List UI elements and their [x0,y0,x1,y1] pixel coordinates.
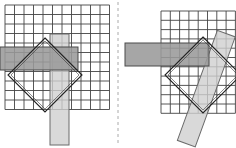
diagram-svg [0,0,236,148]
diagram-canvas [0,0,236,148]
horizontal-bar [0,47,78,70]
right-panel [125,11,236,147]
left-panel [0,5,110,145]
